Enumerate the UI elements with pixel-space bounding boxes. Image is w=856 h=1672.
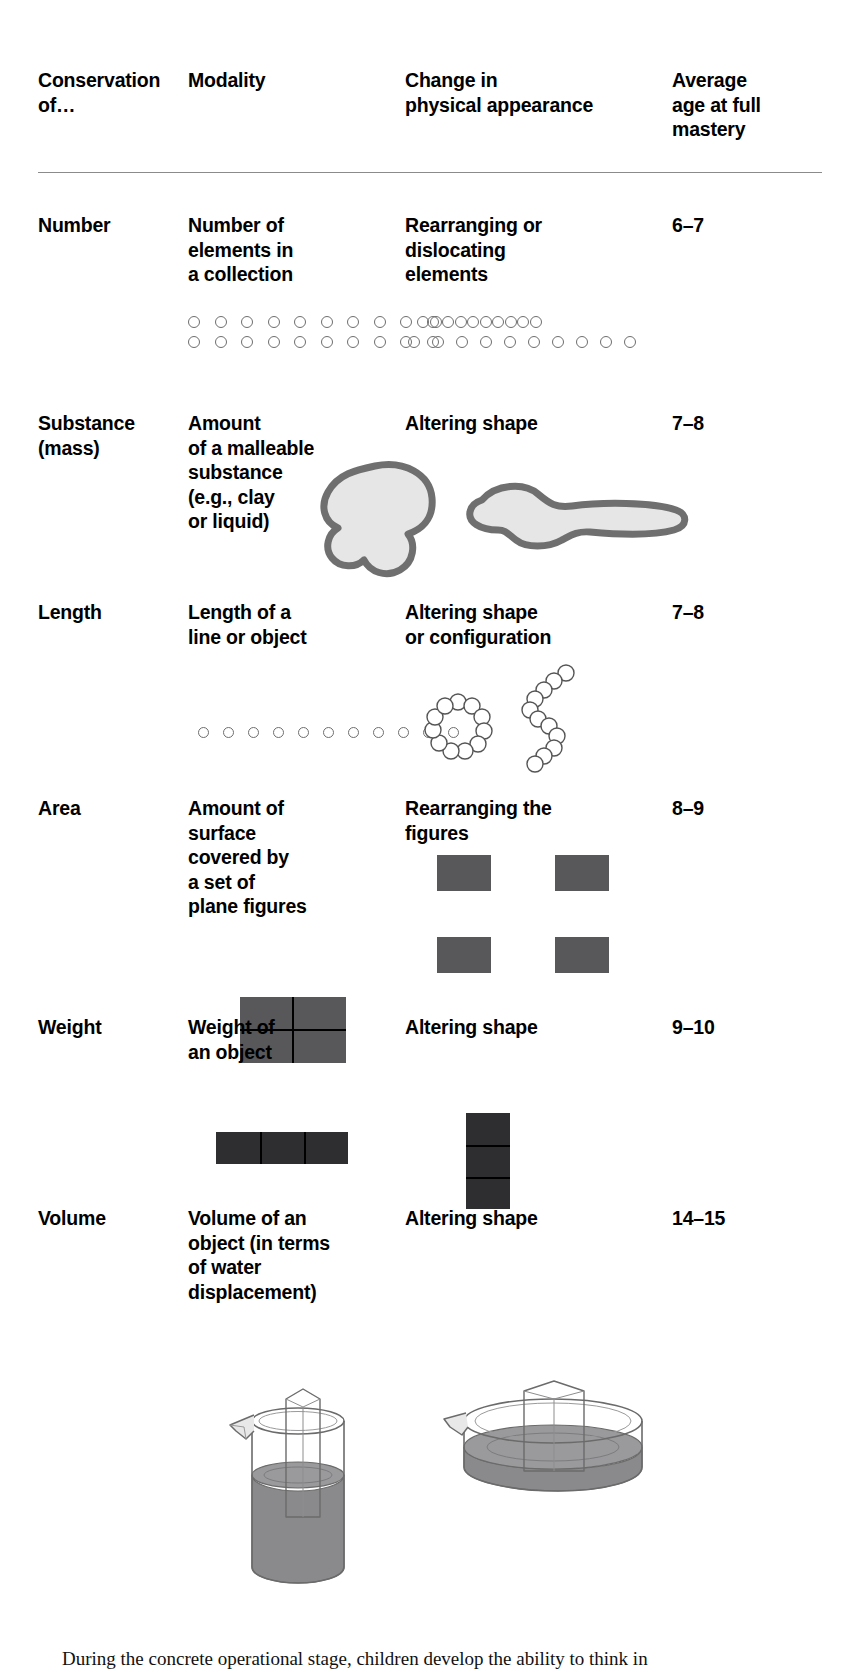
row-number-change-line-1: Rearranging or xyxy=(405,213,595,238)
row-substance-age: 7–8 xyxy=(672,411,822,436)
number-left-top-row xyxy=(188,316,439,328)
number-right-bottom-row xyxy=(408,336,636,348)
column-header-conservation-line-2: of… xyxy=(38,93,178,118)
weight-stack-divider xyxy=(466,1145,510,1147)
weight-stack-divider xyxy=(466,1177,510,1179)
column-header-modality-line-1: Modality xyxy=(188,68,363,93)
row-number-change-line-3: elements xyxy=(405,262,595,287)
row-length-modality-line-1: Length of a xyxy=(188,600,363,625)
substance-illustration-flattened xyxy=(452,478,692,558)
circle-token xyxy=(188,336,200,348)
circle-token xyxy=(347,316,359,328)
row-area-conservation: Area xyxy=(38,796,178,821)
row-weight-age: 9–10 xyxy=(672,1015,822,1040)
row-volume-modality: Volume of an object (in terms of water d… xyxy=(188,1206,363,1304)
circle-token xyxy=(298,727,309,738)
row-volume-age: 14–15 xyxy=(672,1206,822,1231)
row-volume-conservation: Volume xyxy=(38,1206,178,1231)
row-area-modality-line-3: covered by xyxy=(188,845,363,870)
row-length-change-line-2: or configuration xyxy=(405,625,595,650)
circle-token xyxy=(455,316,467,328)
circle-token xyxy=(188,316,200,328)
area-rect xyxy=(437,855,491,891)
circle-token xyxy=(400,316,412,328)
column-header-change: Change in physical appearance xyxy=(405,68,595,117)
column-header-change-line-2: physical appearance xyxy=(405,93,595,118)
row-number-change-line-2: dislocating xyxy=(405,238,595,263)
row-area-age: 8–9 xyxy=(672,796,822,821)
row-area-change: Rearranging the figures xyxy=(405,796,595,845)
row-number-modality-line-3: a collection xyxy=(188,262,363,287)
circle-token xyxy=(442,316,454,328)
length-illustration-ring xyxy=(418,688,498,772)
circle-token xyxy=(268,336,280,348)
circle-token xyxy=(223,727,234,738)
row-substance-conservation-line-1: Substance xyxy=(38,411,178,436)
row-area-modality-line-1: Amount of xyxy=(188,796,363,821)
circle-token xyxy=(321,316,333,328)
row-number-modality-line-1: Number of xyxy=(188,213,363,238)
wide-dish-icon xyxy=(442,1385,662,1515)
row-volume-change: Altering shape xyxy=(405,1206,595,1231)
row-weight-modality-line-1: Weight of xyxy=(188,1015,363,1040)
row-length-change-line-1: Altering shape xyxy=(405,600,595,625)
column-header-conservation-line-1: Conservation xyxy=(38,68,178,93)
row-volume-modality-line-3: of water xyxy=(188,1255,363,1280)
weight-row-divider xyxy=(260,1132,262,1164)
area-rect xyxy=(437,937,491,973)
circle-token xyxy=(600,336,612,348)
weight-illustration-vertical xyxy=(466,1113,510,1209)
column-header-change-line-1: Change in xyxy=(405,68,595,93)
circle-token xyxy=(432,336,444,348)
row-number-modality: Number of elements in a collection xyxy=(188,213,363,287)
row-substance-change: Altering shape xyxy=(405,411,595,436)
row-substance-conservation-line-2: (mass) xyxy=(38,436,178,461)
circle-token xyxy=(417,316,429,328)
circle-token xyxy=(248,727,259,738)
column-header-age-line-1: Average xyxy=(672,68,822,93)
row-substance-modality-line-1: Amount xyxy=(188,411,363,436)
column-header-age: Average age at full mastery xyxy=(672,68,822,142)
circle-token xyxy=(624,336,636,348)
row-area-modality-line-5: plane figures xyxy=(188,894,363,919)
area-illustration-scattered xyxy=(437,855,657,985)
row-number-change: Rearranging or dislocating elements xyxy=(405,213,595,287)
row-length-age: 7–8 xyxy=(672,600,822,625)
row-length-conservation: Length xyxy=(38,600,178,625)
circle-token xyxy=(374,336,386,348)
row-volume-modality-line-1: Volume of an xyxy=(188,1206,363,1231)
circle-token xyxy=(480,316,492,328)
circle-token xyxy=(398,727,409,738)
circle-token xyxy=(456,336,468,348)
circle-token xyxy=(268,316,280,328)
circle-token xyxy=(552,336,564,348)
row-length-change: Altering shape or configuration xyxy=(405,600,595,649)
tall-beaker-icon xyxy=(222,1385,382,1595)
row-number-conservation: Number xyxy=(38,213,178,238)
circle-token xyxy=(241,316,253,328)
column-header-modality: Modality xyxy=(188,68,363,93)
circle-token xyxy=(467,316,479,328)
circle-token xyxy=(373,727,384,738)
volume-illustration-tall-beaker xyxy=(222,1385,382,1595)
clay-ball-icon xyxy=(312,458,452,583)
row-area-change-line-1: Rearranging the xyxy=(405,796,595,821)
column-header-conservation: Conservation of… xyxy=(38,68,178,117)
row-substance-modality-line-2: of a malleable xyxy=(188,436,363,461)
row-weight-change: Altering shape xyxy=(405,1015,595,1040)
weight-row-fill xyxy=(216,1132,348,1164)
circle-token xyxy=(504,336,516,348)
row-number-age: 6–7 xyxy=(672,213,822,238)
circle-token xyxy=(492,316,504,328)
row-weight-modality: Weight of an object xyxy=(188,1015,363,1064)
number-left-bottom-row xyxy=(188,336,439,348)
weight-row-divider xyxy=(304,1132,306,1164)
circle-token xyxy=(374,316,386,328)
circle-token xyxy=(430,316,442,328)
clay-flattened-icon xyxy=(452,478,692,558)
row-weight-change-line-1: Altering shape xyxy=(405,1015,595,1040)
circle-token xyxy=(505,316,517,328)
circle-token xyxy=(215,316,227,328)
figure-caption: During the concrete operational stage, c… xyxy=(62,1646,802,1672)
